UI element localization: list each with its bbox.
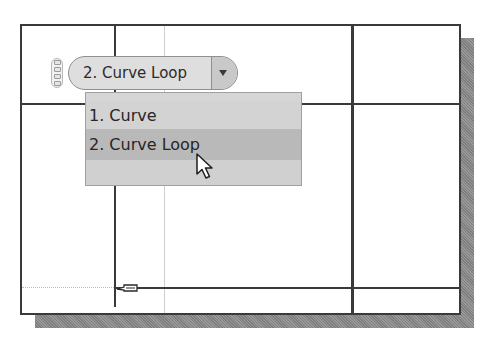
sketch-line-vertical-right [351,26,354,313]
selection-filter-menu: 1. Curve 2. Curve Loop [85,92,302,186]
dropdown-toggle-button[interactable] [211,57,237,89]
construction-line-horizontal [22,287,114,288]
drag-handle-icon[interactable] [51,58,63,88]
menu-item-curve-loop[interactable]: 2. Curve Loop [86,129,301,160]
triangle-down-icon [219,70,227,76]
menu-item-empty[interactable] [86,160,301,185]
sketch-line-horizontal-bottom [114,287,459,289]
selection-filter-value: 2. Curve Loop [69,64,211,82]
pencil-snap-icon [116,283,142,293]
selection-filter-dropdown[interactable]: 2. Curve Loop [68,56,238,90]
arrow-pointer-icon [196,153,216,181]
menu-top-strip [86,93,301,101]
menu-item-curve[interactable]: 1. Curve [86,101,301,129]
